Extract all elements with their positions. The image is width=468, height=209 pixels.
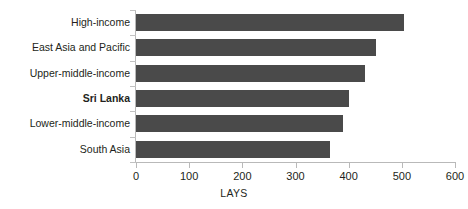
x-axis-tick-label: 500 [382,170,422,183]
bar[interactable] [136,115,343,132]
x-axis-tick-label: 600 [435,170,468,183]
x-axis-tick [402,163,403,168]
x-axis-tick [349,163,350,168]
x-axis-tick [189,163,190,168]
x-axis-tick-label: 100 [169,170,209,183]
bar-row [0,86,468,111]
bar[interactable] [136,141,330,158]
bar-row [0,35,468,60]
bar-chart: High-incomeEast Asia and PacificUpper-mi… [0,0,468,209]
x-axis-tick [455,163,456,168]
bar-row [0,10,468,35]
x-axis-tick [242,163,243,168]
bar-row [0,111,468,136]
bar-row [0,137,468,162]
bar[interactable] [136,39,376,56]
x-axis-tick [296,163,297,168]
bar[interactable] [136,65,365,82]
x-axis-tick-label: 400 [329,170,369,183]
bar[interactable] [136,90,349,107]
x-axis-tick-label: 300 [276,170,316,183]
x-axis-tick-label: 200 [222,170,262,183]
bar-row [0,61,468,86]
x-axis-tick-label: 0 [116,170,156,183]
x-axis-title: LAYS [0,187,468,199]
x-axis-tick [136,163,137,168]
chart-title [0,0,468,1]
bar[interactable] [136,14,404,31]
